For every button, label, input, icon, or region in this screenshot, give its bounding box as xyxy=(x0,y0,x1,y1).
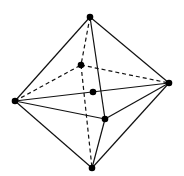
edge-right-front xyxy=(105,83,169,119)
edge-left-front xyxy=(15,101,105,119)
edge-left-back xyxy=(15,65,81,101)
edge-top-back xyxy=(81,17,90,65)
vertex-top xyxy=(87,14,94,21)
octahedron-diagram xyxy=(0,0,184,176)
edge-back-right xyxy=(81,65,169,83)
vertex-front xyxy=(102,116,109,123)
vertex-back xyxy=(78,62,85,69)
vertex-right xyxy=(166,80,173,87)
vertex-center xyxy=(90,89,97,96)
edge-bottom-left xyxy=(15,101,92,168)
edge-top-left xyxy=(15,17,90,101)
edge-top-right xyxy=(90,17,169,83)
vertex-left xyxy=(12,98,19,105)
vertex-bottom xyxy=(89,165,96,172)
